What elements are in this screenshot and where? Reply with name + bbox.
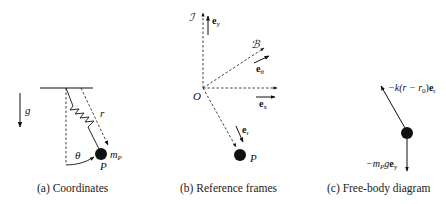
pendulum-figure: g r θ mP P (a) Coordinates ℐ ey ℬ eθ — [0, 0, 446, 204]
mass-p — [95, 148, 107, 160]
mass-p-fbd — [401, 127, 413, 139]
body-frame-axis — [203, 48, 264, 88]
e-x-label: ex — [259, 98, 267, 111]
length-r-label: r — [100, 107, 105, 119]
origin-label: O — [193, 90, 201, 102]
spring-force-label: −k(r − r0)er — [388, 82, 436, 95]
spring — [66, 88, 99, 149]
e-y-label: ey — [212, 15, 220, 28]
panel-c-free-body-diagram: −k(r − r0)er −mPgey (c) Free-body diagra… — [327, 82, 436, 195]
point-p-label-frames: P — [249, 152, 257, 164]
e-theta-label: eθ — [256, 63, 264, 76]
position-vector-dashed — [203, 88, 236, 147]
caption-a: (a) Coordinates — [37, 182, 109, 195]
e-theta-vector — [254, 56, 269, 63]
panel-a-coordinates: g r θ mP P (a) Coordinates — [20, 88, 123, 195]
gravity-label: g — [25, 104, 31, 116]
mass-p-frames — [234, 149, 246, 161]
inertial-frame-label: ℐ — [189, 11, 196, 23]
panel-b-reference-frames: ℐ ey ℬ eθ ex O er P (b) Reference frames — [180, 11, 278, 195]
body-frame-label: ℬ — [251, 38, 261, 50]
caption-c: (c) Free-body diagram — [327, 182, 431, 195]
point-p-label: P — [99, 160, 107, 172]
theta-label: θ — [75, 149, 81, 161]
e-r-label: er — [242, 124, 249, 137]
mass-label: mP — [110, 149, 123, 162]
caption-b: (b) Reference frames — [180, 182, 278, 195]
gravity-force-label: −mPgey — [366, 158, 398, 171]
